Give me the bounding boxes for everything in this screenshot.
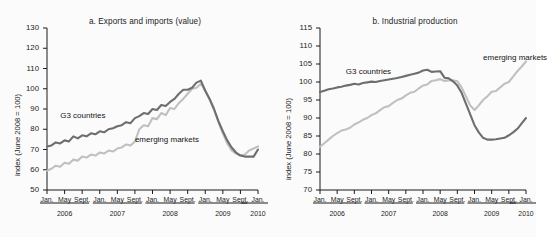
y-axis-tick-label: 50: [15, 185, 39, 194]
x-axis-month-tick-label: Sept.: [127, 196, 143, 203]
x-axis-month-tick-label: Jan.: [519, 196, 532, 203]
x-axis-month-tick-label: Jan.: [416, 196, 429, 203]
x-axis-month-tick-label: Sept.: [74, 196, 90, 203]
x-axis-year-label: 2007: [110, 210, 125, 217]
x-axis-month-tick-label: Sept.: [232, 196, 248, 203]
y-axis-tick-label: 130: [15, 23, 39, 32]
x-axis-month-tick-label: May: [485, 196, 498, 203]
y-axis-tick-label: 90: [15, 104, 39, 113]
x-axis-year-label: 2007: [381, 210, 396, 217]
x-axis-month-tick-label: Sept.: [346, 196, 362, 203]
x-axis-month-tick-label: May: [382, 196, 395, 203]
x-axis-year-label: 2010: [250, 210, 265, 217]
x-axis-month-tick-label: Sept.: [398, 196, 414, 203]
y-axis-tick-label: 70: [15, 145, 39, 154]
y-axis-tick-label: 110: [15, 64, 39, 73]
x-axis-month-tick-label: May: [434, 196, 447, 203]
x-axis-month-tick-label: May: [58, 196, 71, 203]
x-axis-month-tick-label: Jan.: [199, 196, 212, 203]
x-axis-year-label: 2010: [518, 210, 533, 217]
y-axis-tick-label: 70: [288, 185, 312, 194]
chart-panel-exports-imports: a. Exports and imports (value) index (Ju…: [0, 0, 268, 237]
x-axis-month-tick-label: Sept.: [501, 196, 517, 203]
x-axis-month-tick-label: Jan.: [40, 196, 53, 203]
x-axis-month-tick-label: May: [111, 196, 124, 203]
series-annotation-g3-countries: G3 countries: [60, 111, 105, 120]
x-axis-month-tick-label: Jan.: [251, 196, 264, 203]
x-axis-year-label: 2006: [329, 210, 344, 217]
x-axis-month-tick-label: Sept.: [180, 196, 196, 203]
y-axis-tick-label: 85: [288, 131, 312, 140]
y-axis-tick-label: 60: [15, 165, 39, 174]
x-axis-year-label: 2008: [162, 210, 177, 217]
x-axis-month-tick-label: May: [164, 196, 177, 203]
chart-panel-industrial-production: b. Industrial production index (June 200…: [268, 0, 536, 237]
x-axis-month-tick-label: May: [331, 196, 344, 203]
x-axis-month-tick-label: Sept.: [449, 196, 465, 203]
x-axis-month-tick-label: May: [216, 196, 229, 203]
x-axis-year-label: 2009: [484, 210, 499, 217]
x-axis-month-tick-label: Jan.: [313, 196, 326, 203]
series-annotation-emerging-markets: emerging markets: [135, 135, 199, 144]
y-axis-tick-label: 80: [15, 124, 39, 133]
y-axis-tick-label: 90: [288, 113, 312, 122]
x-axis-month-tick-label: Jan.: [468, 196, 481, 203]
x-axis-year-label: 2009: [215, 210, 230, 217]
y-axis-tick-label: 115: [288, 23, 312, 32]
y-axis-tick-label: 110: [288, 41, 312, 50]
y-axis-tick-label: 100: [288, 77, 312, 86]
x-axis-month-tick-label: Jan.: [93, 196, 106, 203]
y-axis-tick-label: 120: [15, 43, 39, 52]
y-axis-tick-label: 105: [288, 59, 312, 68]
series-annotation-emerging-markets: emerging markets: [483, 53, 547, 62]
x-axis-year-label: 2008: [432, 210, 447, 217]
y-axis-tick-label: 95: [288, 95, 312, 104]
x-axis-month-tick-label: Jan.: [365, 196, 378, 203]
x-axis-year-label: 2006: [57, 210, 72, 217]
y-axis-tick-label: 100: [15, 84, 39, 93]
series-annotation-g3-countries: G3 countries: [346, 67, 391, 76]
y-axis-tick-label: 75: [288, 167, 312, 176]
y-axis-tick-label: 80: [288, 149, 312, 158]
x-axis-month-tick-label: Jan.: [146, 196, 159, 203]
